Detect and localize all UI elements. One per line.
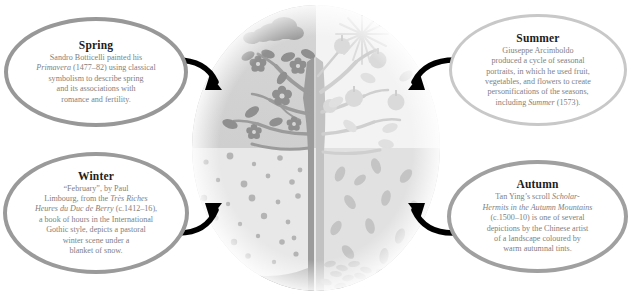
circle-quadrants xyxy=(190,2,442,293)
callout-summer[interactable]: Summer Giuseppe Arcimboldo produced a cy… xyxy=(449,14,627,126)
seasons-infographic: Spring Sandro Botticelli painted his Pri… xyxy=(0,0,631,295)
callout-winter[interactable]: Winter “February”, by Paul Limbourg, fro… xyxy=(3,152,189,274)
callout-spring-body: Sandro Botticelli painted his Primavera … xyxy=(36,53,155,105)
callout-autumn-body: Tan Ying’s scroll Scholar- Hermits in th… xyxy=(482,192,592,254)
callout-spring-title: Spring xyxy=(79,39,113,52)
callout-spring[interactable]: Spring Sandro Botticelli painted his Pri… xyxy=(4,17,188,127)
callout-summer-body: Giuseppe Arcimboldo produced a cycle of … xyxy=(485,46,591,108)
callout-summer-title: Summer xyxy=(516,32,559,45)
callout-autumn[interactable]: Autumn Tan Ying’s scroll Scholar- Hermit… xyxy=(447,160,628,273)
callout-winter-title: Winter xyxy=(78,170,114,183)
callout-winter-body: “February”, by Paul Limbourg, from the T… xyxy=(35,184,157,257)
seasonal-tree-svg xyxy=(190,2,442,293)
seasonal-tree-circle xyxy=(190,2,442,293)
callout-autumn-title: Autumn xyxy=(516,178,558,191)
